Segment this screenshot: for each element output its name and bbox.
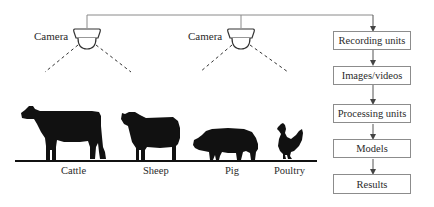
camera-2-label: Camera: [188, 31, 222, 42]
camera-1-icon: [74, 29, 101, 49]
cattle-icon: [21, 106, 106, 160]
flow-step-label: Recording units: [339, 35, 406, 46]
flow-step-results: Results: [333, 174, 411, 194]
flow-step-images-videos: Images/videos: [333, 66, 411, 85]
pig-label: Pig: [225, 166, 239, 177]
camera-1-label: Camera: [34, 31, 68, 42]
poultry-label: Poultry: [274, 166, 305, 177]
flow-step-processing-units: Processing units: [333, 104, 411, 123]
flow-step-label: Images/videos: [342, 70, 403, 81]
flow-step-models: Models: [333, 139, 411, 158]
diagram-canvas: Camera Camera Cattle Sheep Pig Poultry R…: [0, 0, 434, 207]
cattle-label: Cattle: [61, 166, 86, 177]
flow-step-label: Results: [357, 179, 388, 190]
flow-step-recording-units: Recording units: [333, 31, 411, 50]
sheep-label: Sheep: [143, 166, 169, 177]
flow-step-label: Models: [356, 143, 388, 154]
sheep-icon: [121, 112, 180, 160]
flow-step-label: Processing units: [338, 108, 407, 119]
camera-connector-lines: [87, 15, 373, 29]
pig-icon: [193, 128, 258, 160]
poultry-icon: [277, 123, 303, 159]
camera-2-icon: [228, 29, 255, 49]
